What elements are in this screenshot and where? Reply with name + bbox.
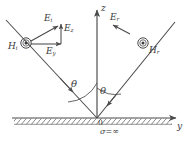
physics-diagram-oblique-incidence: z y 0 σ=∞ θ θ Hi Ei Ez Ey Er Hr <box>0 0 192 148</box>
vector-er <box>113 25 130 34</box>
reflected-magnetic-field-label: Hr <box>149 46 160 56</box>
origin-label: 0 <box>98 119 103 127</box>
ez-subscript: z <box>71 27 74 33</box>
incident-magnetic-field-label: Hi <box>8 42 18 52</box>
er-symbol: E <box>110 12 117 22</box>
conductivity-label: σ=∞ <box>100 128 119 136</box>
conductor-hatching <box>14 119 172 125</box>
ey-component-label: Ey <box>46 47 56 57</box>
hr-symbol: H <box>149 45 157 55</box>
circled-dot-icon-reflected <box>138 38 148 48</box>
ez-component-label: Ez <box>64 24 74 34</box>
h-subscript: i <box>16 45 18 51</box>
ez-symbol: E <box>64 23 71 33</box>
e-subscript: i <box>51 17 53 23</box>
hr-subscript: r <box>157 49 160 55</box>
incident-field-vectors <box>31 24 61 44</box>
ey-symbol: E <box>46 46 53 56</box>
reflected-electric-field-label: Er <box>110 13 119 23</box>
e-symbol: E <box>44 13 51 23</box>
er-subscript: r <box>117 16 120 22</box>
h-symbol: H <box>8 41 16 51</box>
y-axis-label: y <box>177 122 182 131</box>
diagram-canvas <box>0 0 192 148</box>
incident-angle-label: θ <box>71 79 77 89</box>
z-axis-label: z <box>101 4 106 13</box>
vector-ei <box>31 26 58 41</box>
incident-electric-field-label: Ei <box>44 14 52 24</box>
reflected-angle-label: θ <box>100 86 106 96</box>
infinity-symbol: ∞ <box>112 127 119 136</box>
circled-dot-icon-incident <box>21 38 31 48</box>
reflected-ray <box>97 22 175 118</box>
incident-ray <box>6 20 97 118</box>
ey-subscript: y <box>53 50 56 56</box>
